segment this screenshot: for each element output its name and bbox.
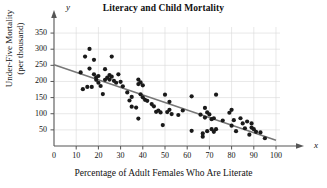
data-point: [241, 121, 245, 125]
data-point: [203, 106, 207, 110]
x-tick-label: 70: [199, 151, 219, 160]
data-point: [110, 55, 114, 59]
data-point: [87, 47, 91, 51]
data-point: [254, 130, 258, 134]
data-point: [198, 113, 202, 117]
data-point: [116, 72, 120, 76]
data-point: [167, 100, 171, 104]
data-point: [87, 66, 91, 70]
data-point: [141, 83, 145, 87]
x-axis-arrowhead: [296, 143, 304, 149]
data-point: [214, 93, 218, 97]
data-point: [163, 93, 167, 97]
chart-figure: Literacy and Child Mortality Under-Five …: [0, 0, 327, 188]
data-point: [221, 118, 225, 122]
data-point: [134, 106, 138, 110]
x-tick-label: 20: [88, 151, 108, 160]
data-point: [114, 81, 118, 85]
data-point: [119, 80, 123, 84]
y-tick-label: 300: [23, 44, 47, 53]
data-point: [249, 121, 253, 125]
x-tick-label: 90: [244, 151, 264, 160]
data-point: [167, 108, 171, 112]
x-tick-label: 60: [177, 151, 197, 160]
data-point: [81, 87, 85, 91]
y-tick-label: 150: [23, 93, 47, 102]
data-point: [158, 110, 162, 114]
data-point: [230, 124, 234, 128]
data-point: [190, 129, 194, 133]
data-point: [245, 119, 249, 123]
x-tick-label: 30: [111, 151, 131, 160]
x-tick-label: 10: [66, 151, 86, 160]
data-point: [263, 136, 267, 140]
data-point: [101, 92, 105, 96]
x-tick-label: 0: [44, 151, 64, 160]
data-point: [99, 84, 103, 88]
x-tick-label: 50: [155, 151, 175, 160]
data-point: [207, 112, 211, 116]
data-point: [92, 58, 96, 62]
data-point: [203, 116, 207, 120]
y-tick-label: 100: [23, 109, 47, 118]
data-point: [230, 108, 234, 112]
data-point: [145, 99, 149, 103]
data-point: [125, 90, 129, 94]
data-point: [96, 74, 100, 78]
data-point: [205, 129, 209, 133]
data-point: [130, 95, 134, 99]
data-point: [79, 70, 83, 74]
data-point: [152, 104, 156, 108]
data-point: [247, 133, 251, 137]
y-tick-label: 200: [23, 76, 47, 85]
data-point: [212, 116, 216, 120]
data-point: [238, 116, 242, 120]
data-point: [258, 130, 262, 134]
data-point: [214, 127, 218, 131]
data-point: [243, 126, 247, 130]
data-point: [170, 112, 174, 116]
y-tick-label: 250: [23, 60, 47, 69]
data-point: [130, 105, 134, 109]
data-point: [232, 118, 236, 122]
data-point: [83, 55, 87, 59]
data-point: [176, 113, 180, 117]
data-point: [110, 75, 114, 79]
y-axis-arrowhead: [51, 10, 57, 18]
data-point: [103, 67, 107, 71]
data-point: [85, 85, 89, 89]
data-point: [136, 116, 140, 120]
data-point: [181, 108, 185, 112]
data-point: [161, 123, 165, 127]
x-tick-label: 40: [133, 151, 153, 160]
data-point: [201, 131, 205, 135]
data-point: [121, 84, 125, 88]
data-point: [234, 129, 238, 133]
x-tick-label: 80: [222, 151, 242, 160]
data-point: [190, 94, 194, 98]
x-tick-label: 100: [266, 151, 286, 160]
y-tick-label: 350: [23, 28, 47, 37]
data-point: [90, 85, 94, 89]
y-tick-label: 50: [23, 125, 47, 134]
data-point: [127, 98, 131, 102]
